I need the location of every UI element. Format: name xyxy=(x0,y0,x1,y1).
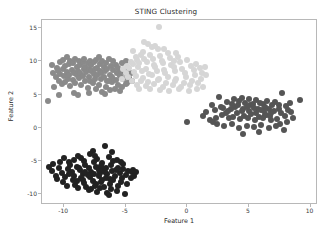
scatter-point xyxy=(71,157,77,163)
scatter-point xyxy=(110,158,116,164)
scatter-point xyxy=(103,165,109,171)
scatter-point xyxy=(170,82,176,88)
x-tick-label: -10 xyxy=(58,207,68,214)
matplotlib-figure: STING Clustering -10-50510 -10-5051015 F… xyxy=(0,0,332,237)
scatter-point xyxy=(186,88,192,94)
scatter-point xyxy=(220,105,226,111)
scatter-point xyxy=(157,87,163,93)
plot-area xyxy=(41,19,317,204)
scatter-point xyxy=(279,90,285,96)
scatter-point xyxy=(210,119,216,125)
scatter-point xyxy=(149,72,155,78)
scatter-point xyxy=(166,88,172,94)
y-tick-mark xyxy=(38,193,41,194)
scatter-point xyxy=(236,98,242,104)
scatter-point xyxy=(82,169,88,175)
scatter-point xyxy=(200,84,206,90)
scatter-point xyxy=(203,72,209,78)
x-axis-label: Feature 1 xyxy=(41,217,317,225)
scatter-point xyxy=(284,119,290,125)
y-tick-label: -10 xyxy=(0,190,37,197)
scatter-point xyxy=(161,46,167,52)
scatter-point xyxy=(176,86,182,92)
scatter-point xyxy=(122,191,128,197)
scatter-point xyxy=(49,62,55,68)
scatter-point xyxy=(130,48,136,54)
scatter-point xyxy=(139,68,145,74)
scatter-point xyxy=(257,100,263,106)
scatter-point xyxy=(221,123,227,129)
scatter-point xyxy=(144,59,150,65)
scatter-point xyxy=(46,164,52,170)
scatter-point xyxy=(276,102,282,108)
scatter-point xyxy=(96,54,102,60)
scatter-point xyxy=(124,181,130,187)
scatter-point xyxy=(74,178,80,184)
scatter-point xyxy=(57,159,63,165)
scatter-point xyxy=(287,100,293,106)
scatter-point xyxy=(109,149,115,155)
scatter-point xyxy=(266,125,272,131)
scatter-point xyxy=(99,177,105,183)
scatter-point xyxy=(171,58,177,64)
y-tick-mark xyxy=(38,94,41,95)
scatter-point xyxy=(160,60,166,66)
scatter-point xyxy=(229,101,235,107)
scatter-point xyxy=(237,116,243,122)
scatter-point xyxy=(136,86,142,92)
scatter-point xyxy=(193,61,199,67)
scatter-point xyxy=(102,91,108,97)
scatter-point xyxy=(88,186,94,192)
scatter-point xyxy=(117,88,123,94)
page-title: STING Clustering xyxy=(0,7,332,16)
scatter-point xyxy=(106,78,112,84)
scatter-point xyxy=(156,24,162,30)
scatter-point xyxy=(64,183,70,189)
y-tick-label: 5 xyxy=(0,90,37,97)
y-tick-mark xyxy=(38,127,41,128)
scatter-point xyxy=(96,82,102,88)
scatter-point xyxy=(202,64,208,70)
y-tick-label: 15 xyxy=(0,23,37,30)
x-tick-label: 5 xyxy=(246,207,250,214)
scatter-points-layer xyxy=(42,20,316,203)
y-tick-label: 0 xyxy=(0,123,37,130)
scatter-point xyxy=(119,76,125,82)
y-tick-label: 10 xyxy=(0,57,37,64)
scatter-point xyxy=(278,110,284,116)
scatter-point xyxy=(51,84,57,90)
scatter-point xyxy=(252,117,258,123)
y-axis-label: Feature 2 xyxy=(7,76,15,136)
scatter-point xyxy=(264,98,270,104)
scatter-point xyxy=(120,166,126,172)
scatter-point xyxy=(285,107,291,113)
y-tick-mark xyxy=(38,27,41,28)
scatter-point xyxy=(258,107,264,113)
scatter-point xyxy=(212,107,218,113)
scatter-point xyxy=(75,185,81,191)
scatter-point xyxy=(239,108,245,114)
scatter-point xyxy=(251,105,257,111)
scatter-point xyxy=(244,104,250,110)
scatter-point xyxy=(200,113,206,119)
scatter-point xyxy=(256,129,262,135)
scatter-point xyxy=(114,188,120,194)
y-tick-mark xyxy=(38,160,41,161)
scatter-point xyxy=(273,123,279,129)
scatter-point xyxy=(268,110,274,116)
scatter-point xyxy=(152,43,158,49)
scatter-point xyxy=(53,173,59,179)
scatter-point xyxy=(71,90,77,96)
scatter-point xyxy=(260,115,266,121)
y-tick-mark xyxy=(38,60,41,61)
scatter-point xyxy=(56,92,62,98)
scatter-point xyxy=(230,114,236,120)
scatter-point xyxy=(244,123,250,129)
scatter-point xyxy=(131,173,137,179)
scatter-point xyxy=(240,131,246,137)
scatter-point xyxy=(118,159,124,165)
scatter-point xyxy=(216,94,222,100)
scatter-point xyxy=(177,59,183,65)
scatter-point xyxy=(78,155,84,161)
scatter-point xyxy=(123,81,129,87)
